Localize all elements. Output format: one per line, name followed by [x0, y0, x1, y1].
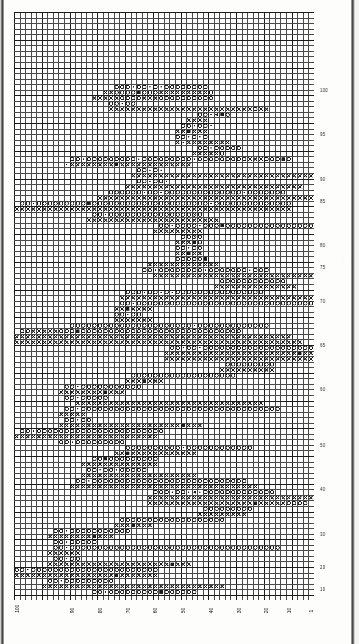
page-edge-right-outer: [355, 0, 359, 644]
row-tick-label: 40: [320, 487, 325, 493]
column-tick-label: 100: [15, 605, 20, 613]
row-tick-label: 10: [320, 587, 325, 593]
page-edge-left: [0, 0, 4, 644]
row-tick-label: 85: [320, 198, 325, 204]
pattern-chart: [14, 12, 314, 600]
chart-canvas: [14, 12, 314, 600]
column-axis: 1009080706050403020101: [14, 592, 314, 614]
column-tick-label: 90: [70, 608, 75, 613]
row-tick-label: 65: [320, 343, 325, 349]
column-tick-label: 1: [309, 610, 314, 613]
column-tick-label: 50: [181, 608, 186, 613]
row-tick-label: 100: [320, 87, 328, 93]
column-tick-label: 60: [153, 608, 158, 613]
row-tick-label: 75: [320, 265, 325, 271]
column-tick-label: 40: [209, 608, 214, 613]
row-axis: 10095908580757065605040302010: [320, 12, 354, 592]
row-tick-label: 60: [320, 387, 325, 393]
column-tick-label: 70: [126, 608, 131, 613]
column-tick-label: 30: [237, 608, 242, 613]
row-tick-label: 70: [320, 298, 325, 304]
chart-grid: [14, 12, 314, 600]
row-tick-label: 30: [320, 531, 325, 537]
row-tick-label: 95: [320, 132, 325, 138]
row-tick-label: 80: [320, 243, 325, 249]
row-tick-label: 20: [320, 565, 325, 571]
column-tick-label: 20: [264, 608, 269, 613]
row-tick-label: 50: [320, 443, 325, 449]
scanned-page: ············· 1009080706050403020101 100…: [0, 0, 359, 644]
column-tick-label: 80: [98, 608, 103, 613]
column-tick-label: 10: [287, 608, 292, 613]
row-tick-label: 90: [320, 176, 325, 182]
